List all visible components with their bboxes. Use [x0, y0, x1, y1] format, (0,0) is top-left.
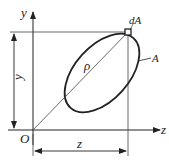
z-axis-label: z [160, 122, 166, 137]
origin-label: O [20, 131, 30, 146]
area-region [50, 20, 153, 126]
area-element-label: dA [129, 14, 142, 26]
radius-label: ρ [83, 58, 90, 73]
area-label: A [151, 52, 159, 64]
z-dimension-label: z [76, 136, 82, 151]
radius-line [33, 32, 128, 130]
polar-moment-diagram: y z O dA A ρ y z [0, 0, 169, 160]
area-label-leader [138, 58, 151, 61]
y-dimension-label: y [10, 74, 25, 82]
y-axis-label: y [19, 5, 27, 20]
